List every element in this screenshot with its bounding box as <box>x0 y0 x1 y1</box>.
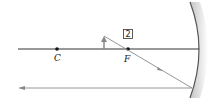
center-of-curvature-point <box>55 47 59 51</box>
center-of-curvature-label: C <box>54 53 61 63</box>
incident-ray-arrow-icon <box>157 67 163 71</box>
focal-point-label: F <box>123 54 131 64</box>
incident-ray <box>104 36 192 88</box>
ray-diagram: C F 2 <box>0 0 214 107</box>
reflected-ray-arrow-icon <box>18 86 25 90</box>
step-label: 2 <box>126 30 131 39</box>
